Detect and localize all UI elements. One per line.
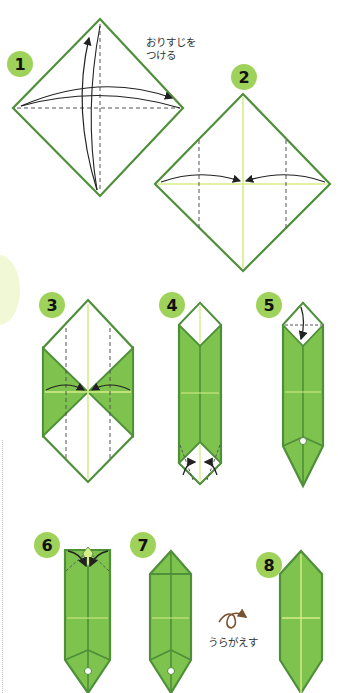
step-4-diagram	[179, 303, 221, 484]
step-badge-4: 4	[159, 292, 185, 318]
origami-diagram	[0, 0, 338, 693]
step-8-diagram	[280, 551, 322, 693]
flip-over-label: うらがえす	[208, 636, 258, 649]
flip-over-icon	[219, 613, 246, 628]
step-badge-1: 1	[7, 51, 33, 77]
step-badge-3: 3	[39, 292, 65, 318]
step-badge-8: 8	[256, 552, 282, 578]
step-badge-5: 5	[256, 292, 282, 318]
step-6-diagram	[65, 547, 110, 693]
step-badge-6: 6	[34, 532, 60, 558]
step-1-note: おりすじを つける	[146, 36, 196, 62]
step-badge-7: 7	[130, 532, 156, 558]
step-badge-2: 2	[231, 64, 257, 90]
step-7-diagram	[150, 551, 191, 693]
step-2-diagram	[155, 94, 330, 271]
step-5-diagram	[283, 303, 323, 486]
step-3-diagram	[43, 300, 133, 482]
